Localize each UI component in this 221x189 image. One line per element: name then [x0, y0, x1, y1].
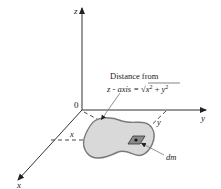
- z-axis-label: z: [73, 6, 78, 16]
- diagram-canvas: z y x 0 Distance from z - axis = √x2 + y…: [0, 0, 221, 189]
- plus-sign: +: [153, 84, 162, 94]
- distance-leader-line: [101, 93, 120, 120]
- y-exponent: 2: [165, 84, 168, 90]
- x-distance-label: x: [69, 129, 74, 139]
- x-axis: [18, 110, 82, 180]
- annotation-line-2: z - axis = √x2 + y2: [106, 84, 168, 95]
- z-var: z - axis =: [106, 84, 141, 94]
- origin-label: 0: [74, 100, 79, 110]
- y-axis-label: y: [200, 113, 205, 123]
- annotation-line-1: Distance from: [110, 71, 159, 81]
- x-axis-label: x: [16, 180, 21, 189]
- moment-of-inertia-diagram: z y x 0 Distance from z - axis = √x2 + y…: [0, 0, 221, 189]
- mass-element-point: [134, 138, 137, 141]
- y-distance-label: y: [156, 117, 161, 127]
- dm-label: dm: [166, 152, 176, 162]
